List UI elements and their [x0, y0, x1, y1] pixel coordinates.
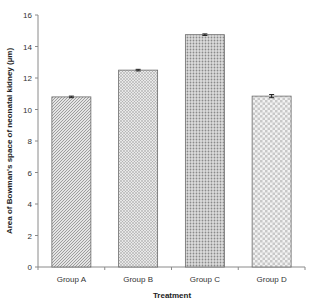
bar-group-c	[185, 35, 224, 267]
y-tick-label: 16	[23, 11, 32, 20]
y-tick-label: 14	[23, 43, 32, 52]
y-axis: 0246810121416	[23, 11, 38, 272]
y-tick-label: 8	[28, 137, 33, 146]
y-tick-label: 6	[28, 169, 33, 178]
bar-group-b	[119, 70, 158, 267]
bar-group-d	[252, 96, 291, 267]
x-axis: Group AGroup BGroup CGroup D	[38, 267, 305, 284]
x-tick-label: Group B	[123, 275, 153, 284]
y-axis-title: Area of Bowman's space of neonatal kidne…	[5, 48, 14, 234]
y-tick-label: 12	[23, 74, 32, 83]
y-tick-label: 2	[28, 232, 33, 241]
bar-group-a	[52, 97, 91, 267]
x-axis-title: Treatment	[153, 291, 192, 300]
bars	[52, 34, 291, 267]
x-tick-label: Group D	[257, 275, 287, 284]
bar-chart: 0246810121416 Group AGroup BGroup CGroup…	[0, 0, 313, 304]
y-tick-label: 10	[23, 106, 32, 115]
y-tick-label: 0	[28, 263, 33, 272]
x-tick-label: Group C	[190, 275, 220, 284]
y-tick-label: 4	[28, 200, 33, 209]
x-tick-label: Group A	[57, 275, 87, 284]
